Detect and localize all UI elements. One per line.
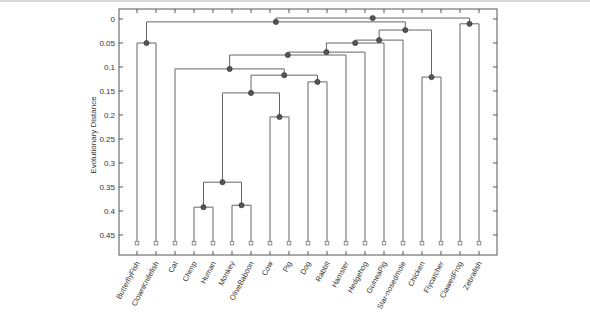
y-axis: 00.050.10.150.20.250.30.350.40.45 <box>99 15 497 240</box>
node-marker <box>370 15 375 20</box>
node-marker <box>324 50 329 55</box>
x-axis: ButterflyFishClownKnifefishCatChimpHuman… <box>114 9 484 311</box>
leaf-marker <box>249 241 253 245</box>
y-tick-label: 0.05 <box>99 39 115 48</box>
node-marker <box>467 21 472 26</box>
leaf-marker <box>287 241 291 245</box>
y-tick-label: 0.2 <box>104 111 116 120</box>
node-marker <box>315 79 320 84</box>
x-tick-label: Cow <box>260 259 275 277</box>
leaf-marker <box>154 241 158 245</box>
leaf-marker <box>211 241 215 245</box>
x-tick-label: Monkey <box>216 259 236 287</box>
y-tick-label: 0.35 <box>99 183 115 192</box>
node-marker <box>144 40 149 45</box>
x-tick-label: Chicken <box>406 260 427 288</box>
node-marker <box>248 90 253 95</box>
leaf-marker <box>325 241 329 245</box>
x-tick-label: Rabbit <box>314 259 333 283</box>
node-marker <box>227 66 232 71</box>
leaf-marker <box>192 241 196 245</box>
y-axis-label: Evolutionary Distance <box>89 96 98 174</box>
leaf-marker <box>306 241 310 245</box>
y-tick-label: 0.1 <box>104 63 116 72</box>
leaf-marker <box>363 241 367 245</box>
leaf-marker <box>344 241 348 245</box>
tree-links <box>137 18 479 243</box>
x-tick-label: Cat <box>166 259 180 274</box>
leaf-marker <box>458 241 462 245</box>
dendrogram-chart: 00.050.10.150.20.250.30.350.40.45 Butter… <box>0 0 590 317</box>
node-marker <box>282 73 287 78</box>
x-tick-label: Dog <box>298 260 312 276</box>
node-marker <box>429 74 434 79</box>
leaf-marker <box>477 241 481 245</box>
y-tick-label: 0 <box>111 15 116 24</box>
x-tick-label: Pig <box>281 260 294 274</box>
node-marker <box>285 52 290 57</box>
node-marker <box>353 40 358 45</box>
leaf-marker <box>382 241 386 245</box>
x-tick-label: Zebrafish <box>461 260 484 292</box>
leaf-marker <box>439 241 443 245</box>
y-tick-label: 0.45 <box>99 231 115 240</box>
leaf-marker <box>173 241 177 245</box>
node-marker <box>220 180 225 185</box>
node-marker <box>403 27 408 32</box>
node-marker <box>273 19 278 24</box>
y-tick-label: 0.15 <box>99 87 115 96</box>
leaf-marker <box>268 241 272 245</box>
node-marker <box>377 38 382 43</box>
x-tick-label: Human <box>198 260 217 286</box>
y-tick-label: 0.3 <box>104 159 116 168</box>
node-marker <box>277 114 282 119</box>
leaf-marker <box>420 241 424 245</box>
node-marker <box>201 205 206 210</box>
y-tick-label: 0.25 <box>99 135 115 144</box>
node-marker <box>239 203 244 208</box>
leaf-markers <box>135 241 481 245</box>
leaf-marker <box>230 241 234 245</box>
x-tick-label: Chimp <box>181 260 199 283</box>
leaf-marker <box>401 241 405 245</box>
leaf-marker <box>135 241 139 245</box>
y-tick-label: 0.4 <box>104 207 116 216</box>
